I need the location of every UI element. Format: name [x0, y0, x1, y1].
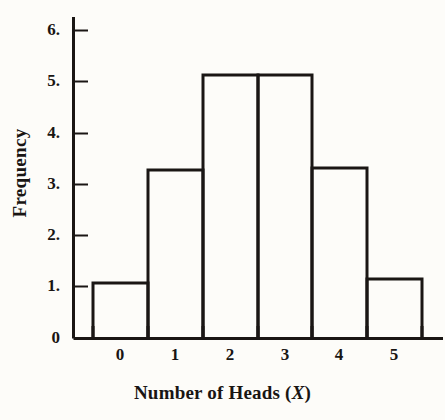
bar-0	[93, 283, 148, 339]
bar-1	[148, 170, 203, 339]
histogram-plot-area	[0, 0, 445, 420]
histogram-bars	[93, 75, 422, 339]
bar-2	[203, 75, 258, 339]
bar-5	[367, 279, 422, 339]
bar-4	[312, 168, 367, 339]
histogram-figure: 6. 5. 4. 3. 2. 1. 0 0 1 2 3 4 5 Frequenc…	[0, 0, 445, 420]
y-axis-ticks	[74, 31, 88, 287]
bar-3	[258, 75, 312, 339]
